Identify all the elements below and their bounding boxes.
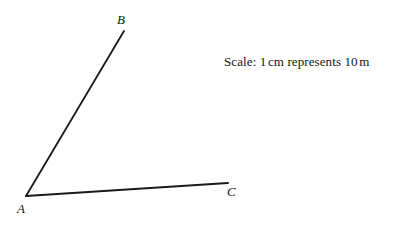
scale-verb-text: represents [287, 54, 341, 69]
scale-target-value-text: 10 [344, 54, 357, 69]
vertex-label-b: B [117, 13, 125, 26]
geometry-figure: A B C Scale: 1cm represents 10m [0, 0, 400, 231]
scale-annotation: Scale: 1cm represents 10m [224, 55, 369, 70]
ray-ac-line [26, 183, 228, 196]
vertex-label-a: A [17, 202, 25, 215]
scale-prefix-text: Scale: [224, 54, 256, 69]
scale-target-unit-text: m [359, 54, 369, 69]
scale-value-text: 1 [260, 54, 267, 69]
scale-unit-text: cm [268, 54, 284, 69]
vertex-label-c: C [227, 185, 236, 198]
angle-diagram-canvas [0, 0, 400, 231]
ray-ab-line [26, 31, 124, 196]
